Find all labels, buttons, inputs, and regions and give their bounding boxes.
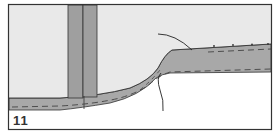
panel-label: 11 (13, 114, 29, 128)
cross-section-diagram (0, 0, 274, 137)
vertical-column-left (68, 5, 83, 98)
vertical-column-right (83, 5, 97, 97)
